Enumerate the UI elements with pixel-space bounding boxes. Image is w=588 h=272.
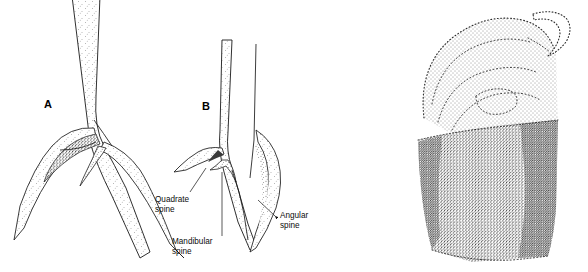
panel-letter-b: B (202, 100, 210, 112)
label-angular-line1: Angular (280, 211, 308, 220)
label-quadrate-line2: spine (155, 205, 175, 214)
label-mandibular-line2: spine (172, 247, 192, 256)
label-angular-line2: spine (280, 221, 300, 230)
panel-letter-a: A (44, 98, 52, 110)
figure-canvas: A B Quadrate spine Mandibula (0, 0, 588, 272)
label-mandibular-line1: Mandibular (172, 237, 213, 246)
panel-c (418, 12, 570, 262)
label-quadrate-line1: Quadrate (155, 195, 190, 204)
